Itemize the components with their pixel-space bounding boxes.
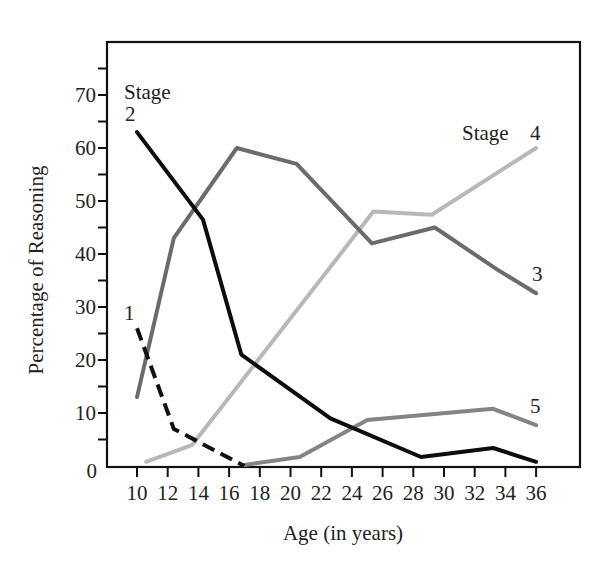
x-tick-label: 16: [219, 481, 240, 505]
y-tick-label: 0: [87, 459, 98, 483]
x-tick-label: 18: [249, 481, 270, 505]
y-tick-label: 60: [75, 136, 96, 160]
x-tick-label: 26: [372, 481, 393, 505]
stage-4-label-number: 4: [530, 121, 541, 145]
x-tick-label: 30: [434, 481, 455, 505]
x-tick-label: 34: [495, 481, 517, 505]
y-tick-label: 70: [75, 83, 96, 107]
y-axis-title: Percentage of Reasoning: [24, 165, 48, 374]
x-tick-label: 28: [403, 481, 424, 505]
series-line-stage-5: [244, 409, 536, 465]
x-tick-label: 32: [464, 481, 485, 505]
x-tick-label: 36: [526, 481, 547, 505]
plot-frame: [107, 42, 580, 467]
y-tick-label: 30: [75, 295, 96, 319]
series-line-stage-2: [137, 132, 536, 462]
stage-2-label-number: 2: [125, 102, 136, 126]
y-tick-label: 40: [75, 242, 96, 266]
line-chart: 010203040506070 101214161820222426283032…: [0, 0, 606, 563]
x-tick-label: 22: [311, 481, 332, 505]
y-tick-label: 50: [75, 189, 96, 213]
y-tick-label: 10: [75, 401, 96, 425]
x-tick-label: 12: [157, 481, 178, 505]
x-tick-label: 24: [341, 481, 363, 505]
stage-3-label-number: 3: [532, 262, 543, 286]
x-axis: 1012141618202224262830323436: [127, 467, 547, 505]
y-axis: 010203040506070: [75, 69, 107, 484]
x-tick-label: 14: [188, 481, 210, 505]
x-tick-label: 10: [127, 481, 148, 505]
stage-2-label-word: Stage: [124, 80, 171, 104]
x-tick-label: 20: [280, 481, 301, 505]
stage-5-label-number: 5: [530, 394, 541, 418]
series-lines: [137, 132, 536, 466]
y-tick-label: 20: [75, 348, 96, 372]
x-axis-title: Age (in years): [283, 521, 403, 545]
stage-4-label-word: Stage: [462, 121, 509, 145]
stage-1-label-number: 1: [124, 301, 135, 325]
